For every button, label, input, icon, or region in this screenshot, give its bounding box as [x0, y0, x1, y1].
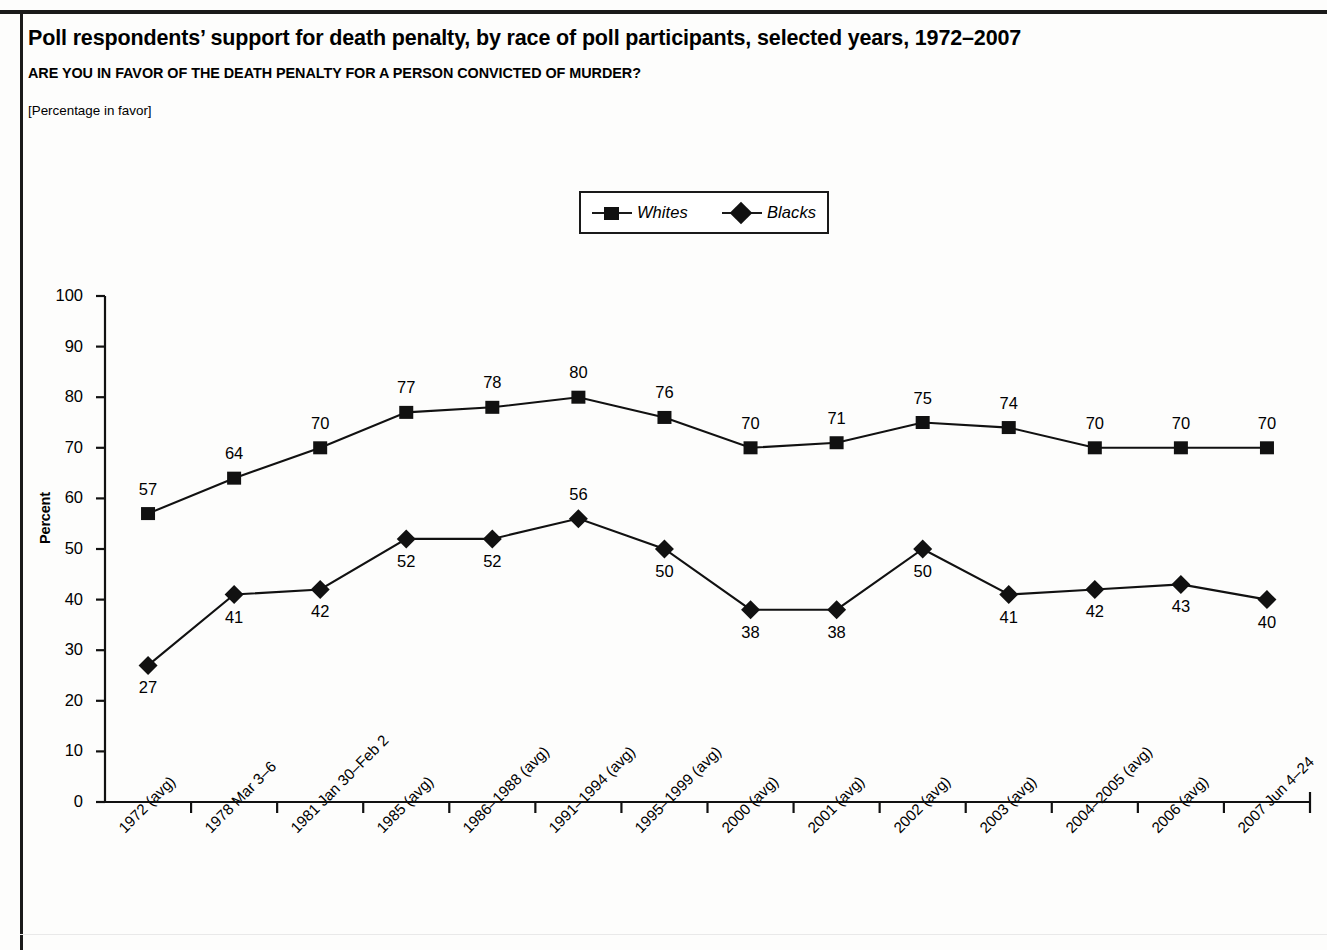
page-canvas: Poll respondents’ support for death pena… [0, 0, 1327, 950]
point-label-blacks-7: 38 [741, 623, 759, 642]
point-label-whites-5: 80 [569, 363, 587, 382]
point-label-blacks-0: 27 [139, 678, 157, 697]
line-chart: Percent 0102030405060708090100 1972 (avg… [0, 0, 1327, 950]
point-label-blacks-8: 38 [827, 623, 845, 642]
point-label-blacks-4: 52 [483, 552, 501, 571]
point-label-blacks-9: 50 [913, 562, 931, 581]
point-label-blacks-6: 50 [655, 562, 673, 581]
point-label-whites-9: 75 [913, 389, 931, 408]
point-label-blacks-12: 43 [1172, 597, 1190, 616]
point-label-blacks-1: 41 [225, 608, 243, 627]
point-label-whites-6: 76 [655, 383, 673, 402]
point-label-whites-13: 70 [1258, 414, 1276, 433]
point-label-blacks-5: 56 [569, 485, 587, 504]
point-label-blacks-11: 42 [1086, 602, 1104, 621]
point-label-whites-1: 64 [225, 444, 243, 463]
point-label-blacks-2: 42 [311, 602, 329, 621]
plot-area [0, 0, 1327, 950]
point-label-whites-4: 78 [483, 373, 501, 392]
point-label-whites-2: 70 [311, 414, 329, 433]
point-label-blacks-13: 40 [1258, 613, 1276, 632]
point-label-whites-0: 57 [139, 480, 157, 499]
point-label-blacks-3: 52 [397, 552, 415, 571]
point-label-whites-11: 70 [1086, 414, 1104, 433]
point-label-whites-10: 74 [1000, 394, 1018, 413]
point-label-blacks-10: 41 [1000, 608, 1018, 627]
point-label-whites-7: 70 [741, 414, 759, 433]
point-label-whites-3: 77 [397, 378, 415, 397]
point-label-whites-8: 71 [827, 409, 845, 428]
point-label-whites-12: 70 [1172, 414, 1190, 433]
